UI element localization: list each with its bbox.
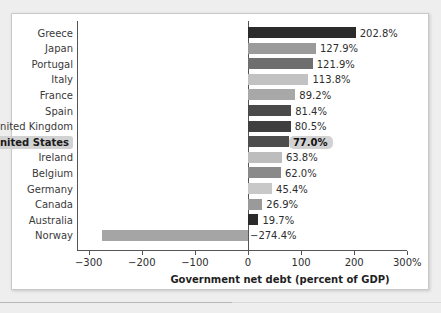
value-label: 80.5% [295, 121, 327, 133]
x-tick [301, 251, 302, 255]
y-axis-line [77, 21, 78, 250]
bar [248, 152, 282, 163]
x-tick-label: 200 [324, 257, 384, 269]
x-tick-label: 0 [218, 257, 278, 269]
x-tick [89, 251, 90, 255]
bar [248, 43, 316, 54]
value-label: 81.4% [295, 106, 327, 118]
value-label: 113.8% [312, 74, 350, 86]
bar [248, 167, 281, 178]
bar-chart: GreeceJapanPortugalItalyFranceSpainUnite… [12, 14, 428, 289]
x-axis-title: Government net debt (percent of GDP) [12, 274, 428, 286]
bar [248, 89, 295, 100]
value-label: 89.2% [299, 90, 331, 102]
x-tick-label: −300 [59, 257, 119, 269]
page-divider-rule [0, 302, 232, 303]
chart-panel: GreeceJapanPortugalItalyFranceSpainUnite… [11, 13, 429, 290]
category-label: Japan [0, 43, 73, 55]
value-label: 19.7% [262, 215, 294, 227]
x-tick-label: −100 [165, 257, 225, 269]
x-tick [354, 251, 355, 255]
bar [248, 136, 289, 147]
highlight-pill: United States [0, 136, 73, 149]
category-label: Germany [0, 184, 73, 196]
value-label: −274.4% [250, 230, 297, 242]
bar [248, 121, 291, 132]
value-label: 202.8% [360, 28, 398, 40]
page-divider-rule-faint [232, 302, 441, 303]
category-label: France [0, 90, 73, 102]
x-tick [142, 251, 143, 255]
bar [248, 74, 308, 85]
category-label: Italy [0, 74, 73, 86]
category-label: Belgium [0, 168, 73, 180]
category-label: Norway [0, 230, 73, 242]
value-label: 121.9% [317, 59, 355, 71]
category-label: Canada [0, 199, 73, 211]
x-tick-label: −200 [112, 257, 172, 269]
x-tick-label: 300% [377, 257, 437, 269]
category-label: Spain [0, 106, 73, 118]
value-label: 26.9% [266, 199, 298, 211]
highlight-pill: 77.0% [289, 136, 333, 149]
x-tick [407, 251, 408, 255]
bar [248, 105, 291, 116]
bar [248, 199, 262, 210]
category-label: Greece [0, 28, 73, 40]
bar [248, 58, 313, 69]
bar [248, 27, 356, 38]
value-label: 62.0% [285, 168, 317, 180]
x-tick [248, 251, 249, 255]
value-label: 63.8% [286, 152, 318, 164]
bar [248, 214, 258, 225]
category-label: Australia [0, 215, 73, 227]
x-axis-line [77, 250, 407, 251]
value-label: 127.9% [320, 43, 358, 55]
category-label: Ireland [0, 152, 73, 164]
x-tick-label: 100 [271, 257, 331, 269]
bar [102, 230, 248, 241]
category-label: United Kingdom [0, 121, 73, 133]
value-label: 77.0% [289, 137, 333, 149]
category-label: United States [0, 137, 73, 149]
bar [248, 183, 272, 194]
x-tick [195, 251, 196, 255]
category-label: Portugal [0, 59, 73, 71]
value-label: 45.4% [276, 184, 308, 196]
